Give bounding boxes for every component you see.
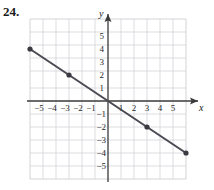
y-tick-label: 3 [100, 57, 105, 67]
x-tick-label: −3 [60, 103, 70, 113]
x-tick-label: −2 [73, 103, 83, 113]
y-tick-label: −1 [96, 109, 106, 119]
coordinate-plane: x y −5 −4 −3 −2 −1 1 2 3 4 5 5 4 3 2 [0, 0, 214, 190]
y-tick-label: −4 [96, 148, 106, 158]
y-tick-label: −2 [96, 122, 106, 132]
x-tick-label: −4 [47, 103, 57, 113]
graph-svg: x y −5 −4 −3 −2 −1 1 2 3 4 5 5 4 3 2 [0, 0, 214, 190]
data-point [66, 72, 71, 77]
y-tick-label: 1 [100, 83, 105, 93]
y-tick-label: −5 [96, 161, 106, 171]
data-point [144, 124, 149, 129]
data-point [183, 150, 188, 155]
y-tick-label: −3 [96, 135, 106, 145]
y-tick-label: 5 [100, 31, 105, 41]
y-axis-label: y [98, 8, 104, 19]
data-point [27, 46, 32, 51]
exercise-figure: 24. [0, 0, 214, 190]
x-tick-label: 2 [132, 103, 137, 113]
x-tick-label: 3 [145, 103, 150, 113]
y-tick-label: 2 [100, 70, 105, 80]
x-tick-label: −1 [86, 103, 96, 113]
x-tick-label: −5 [34, 103, 44, 113]
x-tick-label: 5 [171, 103, 176, 113]
y-tick-label: 4 [100, 44, 105, 54]
x-tick-label: 4 [158, 103, 163, 113]
x-axis-label: x [198, 102, 204, 113]
